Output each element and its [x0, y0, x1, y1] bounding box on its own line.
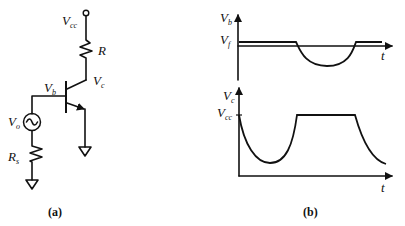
circuit-diagram: Vcc R Vc Vb Vo Rs (a): [7, 10, 106, 219]
vb-axis-label: Vb: [220, 10, 232, 27]
ground-icon: [26, 180, 38, 189]
vcc-label: Vcc: [62, 13, 78, 30]
vc-axis-label: Vc: [223, 88, 235, 105]
vcc-level-label: Vcc: [217, 105, 233, 122]
rs-label: Rs: [7, 149, 19, 166]
vc-waveform: [239, 115, 386, 164]
collector-lead: [67, 80, 86, 89]
vf-label: Vf: [220, 32, 232, 49]
vo-label: Vo: [8, 114, 20, 131]
source-resistor-icon: [30, 131, 42, 180]
load-resistor-icon: [80, 16, 92, 80]
waveform-bottom: Vc Vcc t: [217, 88, 392, 195]
ground-icon: [79, 147, 91, 156]
sine-glyph: [27, 119, 38, 125]
figure: Vcc R Vc Vb Vo Rs (a) Vb Vf t: [0, 0, 405, 226]
vcc-terminal-icon: [83, 10, 89, 16]
waveform-top: Vb Vf t: [220, 10, 392, 80]
emitter-lead: [67, 103, 84, 109]
vc-label: Vc: [93, 73, 105, 90]
r-label: R: [97, 43, 106, 58]
base-wire: [32, 96, 66, 114]
t-label: t: [381, 180, 385, 195]
vb-label: Vb: [44, 80, 56, 97]
t-label: t: [381, 48, 385, 63]
caption-b: (b): [303, 205, 318, 219]
caption-a: (a): [48, 205, 62, 219]
